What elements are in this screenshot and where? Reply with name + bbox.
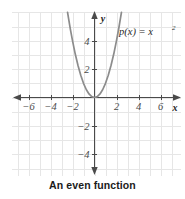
y-tick-label: −4 — [77, 149, 90, 160]
y-axis-arrow-bottom — [91, 167, 97, 175]
y-tick-label: 2 — [84, 64, 90, 75]
x-tick-label: −6 — [22, 101, 35, 112]
x-axis-arrow-right — [173, 94, 181, 100]
x-tick-labels: −6−4−2246 — [22, 101, 164, 112]
y-tick-label: 4 — [84, 36, 90, 47]
even-function-figure: −6−4−2246 42−2−4 x y p(x) = x 2 An even … — [0, 0, 185, 199]
figure-caption: An even function — [0, 178, 185, 192]
x-tick-label: 4 — [136, 101, 142, 112]
x-tick-label: 2 — [114, 101, 120, 112]
coordinate-plane: −6−4−2246 42−2−4 x y p(x) = x 2 — [0, 0, 185, 178]
graph-svg: −6−4−2246 42−2−4 x y p(x) = x 2 — [0, 0, 185, 178]
function-label-exponent: 2 — [172, 24, 176, 32]
function-label: p(x) = x 2 — [118, 24, 176, 38]
x-axis-label: x — [172, 102, 178, 113]
x-tick-label: −4 — [44, 101, 57, 112]
y-axis-label: y — [100, 13, 106, 24]
function-label-text: p(x) = x — [118, 26, 153, 38]
axes — [13, 11, 181, 175]
gridlines — [12, 12, 181, 176]
x-tick-label: −2 — [66, 101, 79, 112]
y-tick-label: −2 — [77, 121, 90, 132]
x-axis-arrow-left — [13, 94, 21, 100]
x-tick-label: 6 — [158, 101, 164, 112]
